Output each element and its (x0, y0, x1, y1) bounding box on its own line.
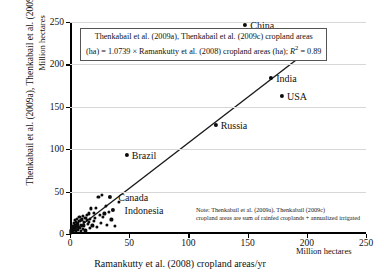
point-label-usa: USA (287, 90, 307, 101)
y-tick-mark (66, 22, 70, 23)
gridline-y (70, 107, 366, 108)
y-axis-title: Thenkabail et al. (2009a), Thenkabail et… (25, 0, 36, 186)
equation-line-1: Thenkabail et al. (2009a), Thenkabail et… (86, 32, 321, 43)
gridline-y (70, 149, 366, 150)
y-tick-label: 50 (55, 187, 65, 197)
y-axis-title-line1: Thenkabail et al. (2009a), Thenkabail et… (25, 0, 35, 186)
point-label-russia: Russia (221, 120, 248, 131)
y-tick-label: 0 (59, 229, 64, 239)
point-label-canada: Canada (118, 191, 148, 202)
y-tick-label: 200 (50, 59, 64, 69)
chart-note: Note: Thenkabail et al. (2009a), Thenkab… (196, 206, 360, 221)
y-tick-label: 100 (50, 144, 64, 154)
equation-formula: (ha) = 1.0739 × Ramankutty et al. (2008)… (86, 46, 290, 55)
gridline-y (70, 22, 366, 23)
y-tick-mark (66, 192, 70, 193)
x-tick-label: 0 (68, 238, 73, 248)
point-label-india: India (276, 72, 297, 83)
note-line-1: Note: Thenkabail et al. (2009a), Thenkab… (196, 206, 360, 214)
x-tick-label: 50 (124, 238, 134, 248)
x-tick-label: 200 (300, 238, 314, 248)
equation-line-2: (ha) = 1.0739 × Ramankutty et al. (2008)… (86, 43, 321, 57)
x-tick-label: 250 (359, 238, 373, 248)
x-tick-label: 150 (240, 238, 254, 248)
equation-callout-box: Thenkabail et al. (2009a), Thenkabail et… (80, 28, 327, 61)
y-axis-units-label: Million hectares (37, 0, 47, 91)
note-line-2: cropland areas are sum of rainfed cropla… (196, 214, 360, 222)
r-squared-value: = 0.89 (298, 46, 321, 55)
y-tick-mark (66, 64, 70, 65)
y-tick-mark (66, 107, 70, 108)
gridline-y (70, 64, 366, 65)
y-tick-label: 150 (50, 102, 64, 112)
y-tick-mark (66, 149, 70, 150)
data-point (70, 232, 73, 235)
chart-figure: Thenkabail et al. (2009a), Thenkabail et… (0, 0, 384, 279)
x-tick-label: 100 (181, 238, 195, 248)
x-axis-title: Ramankutty et al. (2008) cropland areas/… (40, 258, 320, 269)
y-tick-label: 250 (50, 17, 64, 27)
point-label-indonesia: Indonesia (125, 205, 164, 216)
point-label-brazil: Brazil (132, 150, 156, 161)
gridline-y (70, 192, 366, 193)
